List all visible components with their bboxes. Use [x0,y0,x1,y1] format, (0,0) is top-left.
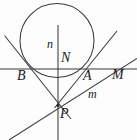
label-P: P [60,107,69,121]
geometry-figure: n N B A M m P [0,0,137,140]
label-M: M [112,68,124,82]
circle [20,4,94,78]
label-m-lowercase: m [88,88,97,100]
label-N: N [61,51,70,65]
label-n-lowercase: n [47,38,53,50]
label-A: A [83,69,92,83]
label-B: B [17,69,26,83]
